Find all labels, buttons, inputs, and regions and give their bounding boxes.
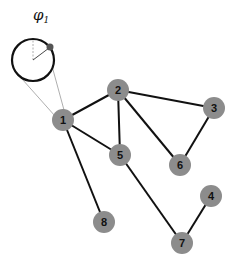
node-label: 6 <box>177 159 183 171</box>
node-label: 1 <box>60 114 66 126</box>
node-1: 1 <box>52 109 74 131</box>
node-7: 7 <box>171 232 193 254</box>
phase-indicator: φ1 <box>12 6 54 81</box>
edge-2-3 <box>118 90 214 108</box>
node-label: 2 <box>115 84 121 96</box>
graph-svg: φ1 12345678 <box>0 0 234 261</box>
phi-label: φ1 <box>33 6 49 25</box>
phase-marker <box>47 44 54 51</box>
node-3: 3 <box>203 97 225 119</box>
edges <box>63 90 214 243</box>
network-diagram: φ1 12345678 <box>0 0 234 261</box>
node-label: 7 <box>179 237 185 249</box>
node-label: 5 <box>117 149 123 161</box>
node-8: 8 <box>93 211 115 233</box>
node-2: 2 <box>107 79 129 101</box>
edge-1-8 <box>63 120 104 222</box>
node-label: 4 <box>208 190 215 202</box>
node-4: 4 <box>200 185 222 207</box>
node-5: 5 <box>109 144 131 166</box>
node-6: 6 <box>169 154 191 176</box>
node-label: 3 <box>211 102 217 114</box>
node-label: 8 <box>101 216 107 228</box>
